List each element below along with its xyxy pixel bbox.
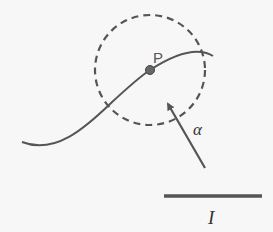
bar-label: I — [207, 207, 216, 228]
arrow-label: α — [193, 120, 203, 139]
point-p — [146, 66, 155, 75]
diagram-svg: P α I — [0, 0, 273, 232]
point-label: P — [153, 49, 163, 66]
diagram-canvas: P α I — [0, 0, 273, 232]
